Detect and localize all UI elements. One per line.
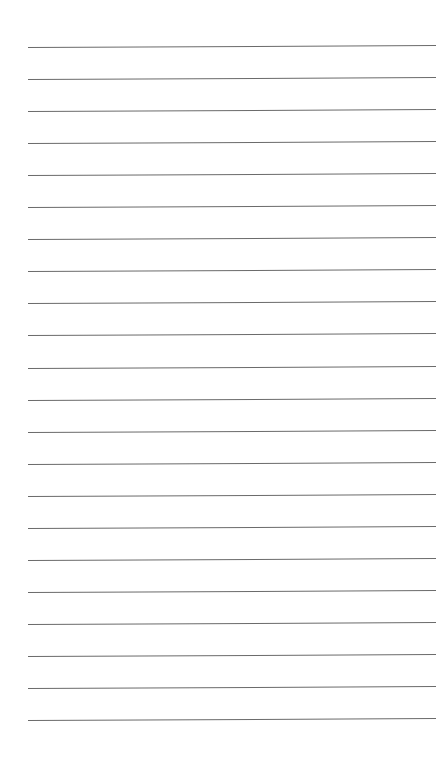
ruled-line (28, 494, 436, 497)
ruled-line (28, 333, 436, 336)
ruled-line (28, 590, 436, 593)
ruled-line (28, 205, 436, 208)
ruled-line (28, 686, 436, 689)
ruled-line (28, 173, 436, 176)
ruled-line (28, 237, 436, 240)
ruled-line (28, 430, 436, 433)
ruled-line (28, 45, 436, 48)
ruled-line (28, 109, 436, 112)
ruled-line (28, 269, 436, 272)
ruled-line (28, 558, 436, 561)
ruled-line (28, 718, 436, 721)
ruled-line (28, 77, 436, 80)
ruled-line (28, 526, 436, 529)
ruled-line (28, 654, 436, 657)
ruled-line (28, 462, 436, 465)
ruled-line (28, 366, 436, 369)
lined-paper-sheet (0, 0, 444, 766)
ruled-line (28, 398, 436, 401)
ruled-line (28, 301, 436, 304)
ruled-line (28, 622, 436, 625)
ruled-line (28, 141, 436, 144)
